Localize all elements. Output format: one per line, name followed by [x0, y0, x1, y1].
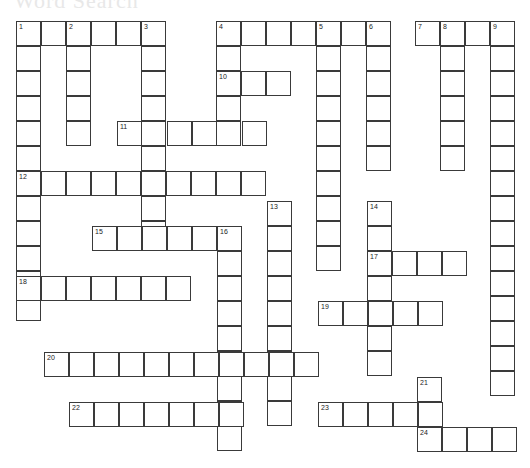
- crossword-cell[interactable]: [266, 21, 291, 46]
- crossword-cell[interactable]: [16, 46, 41, 71]
- crossword-cell[interactable]: [440, 71, 465, 96]
- crossword-cell[interactable]: 22: [69, 402, 94, 427]
- crossword-cell[interactable]: [16, 246, 41, 271]
- crossword-cell[interactable]: [16, 221, 41, 246]
- crossword-cell[interactable]: [241, 21, 266, 46]
- crossword-cell[interactable]: [442, 427, 467, 452]
- crossword-cell[interactable]: [216, 96, 241, 121]
- crossword-cell[interactable]: [119, 402, 144, 427]
- crossword-cell[interactable]: [267, 376, 292, 401]
- crossword-cell[interactable]: [217, 426, 242, 451]
- crossword-cell[interactable]: [367, 326, 392, 351]
- crossword-cell[interactable]: 5: [316, 21, 341, 46]
- crossword-cell[interactable]: [219, 352, 244, 377]
- crossword-cell[interactable]: [267, 226, 292, 251]
- crossword-cell[interactable]: [169, 402, 194, 427]
- crossword-cell[interactable]: [216, 46, 241, 71]
- crossword-cell[interactable]: [219, 402, 244, 427]
- crossword-cell[interactable]: [316, 171, 341, 196]
- crossword-cell[interactable]: [392, 251, 417, 276]
- crossword-cell[interactable]: [341, 21, 366, 46]
- crossword-cell[interactable]: [316, 246, 341, 271]
- crossword-cell[interactable]: [217, 376, 242, 401]
- crossword-cell[interactable]: 7: [415, 21, 440, 46]
- crossword-cell[interactable]: [490, 46, 515, 71]
- crossword-cell[interactable]: [440, 96, 465, 121]
- crossword-cell[interactable]: 2: [66, 21, 91, 46]
- crossword-cell[interactable]: [366, 46, 391, 71]
- crossword-cell[interactable]: [316, 221, 341, 246]
- crossword-cell[interactable]: [490, 221, 515, 246]
- crossword-cell[interactable]: [242, 121, 267, 146]
- crossword-cell[interactable]: [490, 171, 515, 196]
- crossword-cell[interactable]: [244, 352, 269, 377]
- crossword-cell[interactable]: [490, 296, 515, 321]
- crossword-cell[interactable]: 9: [490, 21, 515, 46]
- crossword-cell[interactable]: [368, 301, 393, 326]
- crossword-cell[interactable]: [216, 121, 241, 146]
- crossword-cell[interactable]: [266, 71, 291, 96]
- crossword-cell[interactable]: [166, 171, 191, 196]
- crossword-cell[interactable]: [216, 171, 241, 196]
- crossword-cell[interactable]: [440, 46, 465, 71]
- crossword-cell[interactable]: [465, 21, 490, 46]
- crossword-cell[interactable]: [69, 352, 94, 377]
- crossword-cell[interactable]: 16: [217, 226, 242, 251]
- crossword-cell[interactable]: [167, 226, 192, 251]
- crossword-cell[interactable]: [91, 21, 116, 46]
- crossword-cell[interactable]: [343, 402, 368, 427]
- crossword-cell[interactable]: [490, 96, 515, 121]
- crossword-cell[interactable]: [267, 326, 292, 351]
- crossword-cell[interactable]: [241, 171, 266, 196]
- crossword-cell[interactable]: [41, 21, 66, 46]
- crossword-cell[interactable]: [192, 226, 217, 251]
- crossword-cell[interactable]: [442, 251, 467, 276]
- crossword-cell[interactable]: [366, 121, 391, 146]
- crossword-cell[interactable]: 20: [44, 352, 69, 377]
- crossword-cell[interactable]: [167, 121, 192, 146]
- crossword-cell[interactable]: [217, 301, 242, 326]
- crossword-cell[interactable]: [91, 276, 116, 301]
- crossword-cell[interactable]: 21: [417, 377, 442, 402]
- crossword-cell[interactable]: [141, 71, 166, 96]
- crossword-cell[interactable]: [16, 71, 41, 96]
- crossword-cell[interactable]: [144, 352, 169, 377]
- crossword-cell[interactable]: [66, 96, 91, 121]
- crossword-cell[interactable]: 4: [216, 21, 241, 46]
- crossword-cell[interactable]: [267, 401, 292, 426]
- crossword-cell[interactable]: [467, 427, 492, 452]
- crossword-cell[interactable]: [316, 146, 341, 171]
- crossword-cell[interactable]: 23: [318, 402, 343, 427]
- crossword-cell[interactable]: [142, 226, 167, 251]
- crossword-cell[interactable]: [440, 146, 465, 171]
- crossword-cell[interactable]: [490, 146, 515, 171]
- crossword-cell[interactable]: [418, 402, 443, 427]
- crossword-cell[interactable]: [16, 96, 41, 121]
- crossword-cell[interactable]: [217, 276, 242, 301]
- crossword-cell[interactable]: 6: [366, 21, 391, 46]
- crossword-cell[interactable]: [241, 71, 266, 96]
- crossword-cell[interactable]: 14: [367, 201, 392, 226]
- crossword-cell[interactable]: [116, 21, 141, 46]
- crossword-cell[interactable]: [66, 171, 91, 196]
- crossword-cell[interactable]: [141, 146, 166, 171]
- crossword-cell[interactable]: [316, 71, 341, 96]
- crossword-cell[interactable]: [490, 346, 515, 371]
- crossword-cell[interactable]: [490, 371, 515, 396]
- crossword-cell[interactable]: [194, 352, 219, 377]
- crossword-cell[interactable]: [267, 276, 292, 301]
- crossword-cell[interactable]: [343, 301, 368, 326]
- crossword-cell[interactable]: [367, 276, 392, 301]
- crossword-cell[interactable]: [490, 246, 515, 271]
- crossword-cell[interactable]: [366, 146, 391, 171]
- crossword-cell[interactable]: [294, 352, 319, 377]
- crossword-cell[interactable]: [418, 301, 443, 326]
- crossword-cell[interactable]: [91, 171, 116, 196]
- crossword-cell[interactable]: [217, 251, 242, 276]
- crossword-cell[interactable]: 10: [216, 71, 241, 96]
- crossword-cell[interactable]: [141, 171, 166, 196]
- crossword-cell[interactable]: [366, 96, 391, 121]
- crossword-cell[interactable]: [366, 71, 391, 96]
- crossword-cell[interactable]: 12: [16, 171, 41, 196]
- crossword-cell[interactable]: 3: [141, 21, 166, 46]
